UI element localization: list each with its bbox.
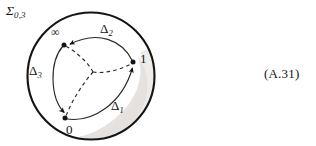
spoke-to-one-dashed xyxy=(93,64,131,73)
equation-number: (A.31) xyxy=(264,66,300,82)
interior-shading xyxy=(30,40,177,146)
delta2-label-subscript: 2 xyxy=(108,28,112,38)
figure-container: Σ0,3 Δ2 Δ3 Δ1 ∞ 1 0 (A.31) xyxy=(0,0,316,146)
spoke-to-zero-dashed xyxy=(66,72,93,116)
delta2-label: Δ2 xyxy=(100,22,113,35)
delta1-label: Δ1 xyxy=(111,99,124,112)
delta3-arc xyxy=(53,46,64,113)
spoke-to-infinity-dashed xyxy=(66,46,93,72)
point-infinity-label: ∞ xyxy=(51,26,60,38)
point-zero-label: 0 xyxy=(66,123,73,136)
point-infinity xyxy=(62,43,67,48)
point-zero xyxy=(63,116,68,121)
delta2-arc xyxy=(70,38,133,61)
surface-label-sigma: Σ xyxy=(6,3,14,18)
point-one-label: 1 xyxy=(140,52,147,65)
delta3-label-subscript: 3 xyxy=(37,70,41,80)
delta1-label-subscript: 1 xyxy=(119,105,123,115)
surface-label-subscript: 0,3 xyxy=(14,10,26,20)
delta3-label: Δ3 xyxy=(29,64,42,77)
surface-label: Σ0,3 xyxy=(6,4,26,18)
point-one xyxy=(131,60,136,65)
outer-circle xyxy=(28,13,155,140)
